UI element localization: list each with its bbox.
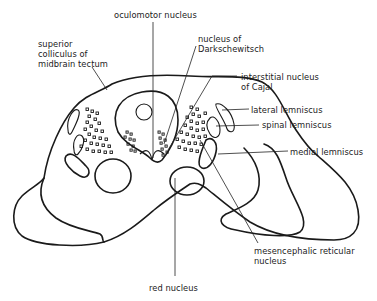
leader-lateral-lemniscus	[222, 109, 249, 110]
label-medial-lemniscus: medial lemniscus	[290, 147, 363, 157]
label-spinal-lemniscus: spinal lemniscus	[262, 120, 332, 130]
cerebral-aqueduct	[136, 104, 152, 120]
midline-notch	[140, 151, 164, 160]
midbrain-diagram: oculomotor nucleus superior colliculus o…	[0, 0, 377, 301]
label-red-nucleus: red nucleus	[149, 283, 198, 293]
label-superior-colliculus: superior colliculus of midbrain tectum	[38, 39, 108, 69]
right-peduncle-boundary	[221, 144, 304, 236]
label-oculomotor-nucleus: oculomotor nucleus	[114, 10, 197, 20]
left-peduncle-boundary	[41, 178, 104, 242]
right-spinal-lemniscus	[207, 117, 220, 138]
label-lateral-lemniscus: lateral lemniscus	[251, 105, 323, 115]
label-mesencephalic-reticular-nucleus: mesencephalic reticular nucleus	[254, 246, 355, 266]
leader-superior-colliculus	[92, 67, 107, 90]
left-reticular-dots	[80, 108, 113, 154]
right-lateral-lemniscus	[216, 104, 235, 132]
label-nucleus-of-darkschewitsch: nucleus of Darkschewitsch	[198, 34, 264, 54]
leader-medial-lemniscus	[218, 151, 288, 154]
red-nucleus-left	[95, 159, 131, 193]
label-interstitial-nucleus-of-cajal: interstitial nucleus of Cajal	[241, 72, 319, 92]
left-medial-lemniscus	[65, 154, 89, 177]
leader-spinal-lemniscus	[216, 125, 259, 126]
